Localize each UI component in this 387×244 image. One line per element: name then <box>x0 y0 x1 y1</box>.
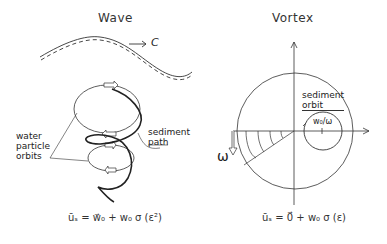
orbit-arrow-icons <box>102 81 118 174</box>
sediment-path-label: sediment path <box>148 127 190 147</box>
rotation-arcs <box>244 131 294 165</box>
wave-speed-arrow-icon <box>129 41 146 47</box>
vortex-equation: ūₛ = 0⃗ + w₀ σ (ε) <box>262 212 346 223</box>
omega-arrow-icon <box>229 131 237 155</box>
upper-water-orbit <box>74 85 140 133</box>
wave-equation: ūₛ = w⃗₀ + w₀ σ (ε²) <box>68 212 162 223</box>
wave-title: Wave <box>98 11 133 25</box>
wave-surface <box>40 37 192 80</box>
sediment-orbit-label: sediment orbit <box>302 90 344 111</box>
vortex-axes <box>233 42 369 205</box>
omega-label: ω <box>217 151 229 161</box>
wave-speed-label: C <box>151 38 159 48</box>
radius-label: w₀/ω <box>313 117 332 127</box>
water-particle-orbits-label: water particle orbits <box>16 131 50 161</box>
vortex-title: Vortex <box>272 11 314 25</box>
